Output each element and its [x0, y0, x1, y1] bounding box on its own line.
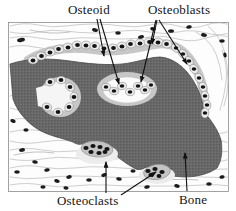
osteoid-label: Osteoid [68, 3, 110, 16]
osteoclasts-label: Osteoclasts [57, 194, 118, 207]
bone-histology-figure: Osteoid Osteoblasts Osteoclasts Bone [0, 0, 236, 211]
osteoblasts-label: Osteoblasts [148, 3, 210, 16]
central-lacuna [97, 72, 157, 106]
bone-label: Bone [179, 193, 207, 206]
bone-illustration [0, 0, 236, 211]
